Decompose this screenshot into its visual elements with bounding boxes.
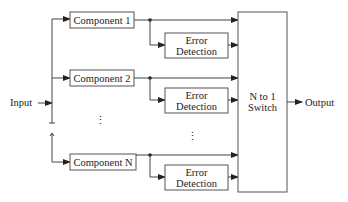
- ellipsis-switch-inputs: ⋮: [187, 131, 198, 142]
- error-detection-n-line1: Error: [185, 167, 208, 178]
- output-label: Output: [305, 97, 334, 108]
- branch-n: Component N Error Detection: [52, 153, 238, 190]
- error-detection-n-line2: Detection: [176, 178, 218, 189]
- error-detection-2-line2: Detection: [176, 101, 218, 112]
- component-n-label: Component N: [73, 157, 133, 168]
- switch-line2: Switch: [248, 102, 278, 113]
- ellipsis-components: ⋮: [95, 115, 106, 126]
- branch-1: Component 1 Error Detection: [52, 12, 238, 58]
- branch-2: Component 2 Error Detection: [52, 70, 238, 113]
- component-1-label: Component 1: [74, 15, 131, 26]
- error-detection-1-line1: Error: [185, 35, 208, 46]
- redundancy-block-diagram: Input Component 1 Error Detection Compon…: [0, 0, 348, 202]
- component-2-label: Component 2: [74, 73, 131, 84]
- error-detection-1-line2: Detection: [176, 46, 218, 57]
- switch-line1: N to 1: [249, 91, 275, 102]
- error-detection-2-line1: Error: [185, 90, 208, 101]
- input-label: Input: [10, 97, 32, 108]
- input-bus: [49, 19, 55, 162]
